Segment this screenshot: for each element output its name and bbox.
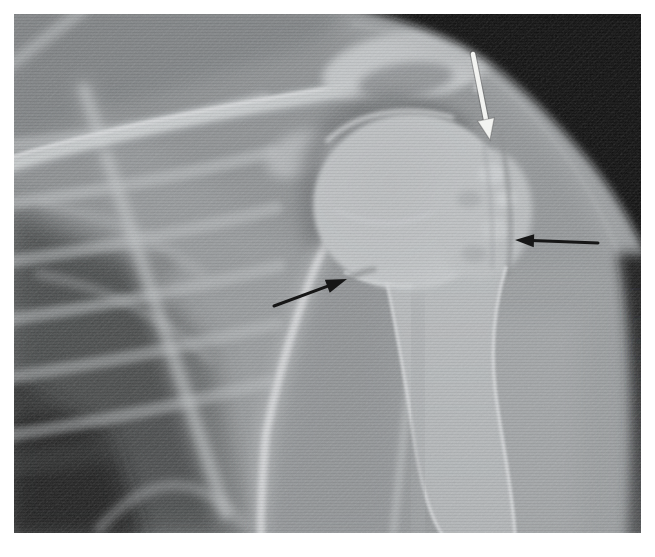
black-arrow-right-annotation (515, 234, 598, 247)
black-arrow-lower-left-annotation (274, 279, 347, 306)
annotation-layer (14, 14, 641, 533)
white-arrow-annotation (473, 54, 494, 140)
figure-page (0, 0, 655, 557)
radiograph-film (14, 14, 641, 533)
